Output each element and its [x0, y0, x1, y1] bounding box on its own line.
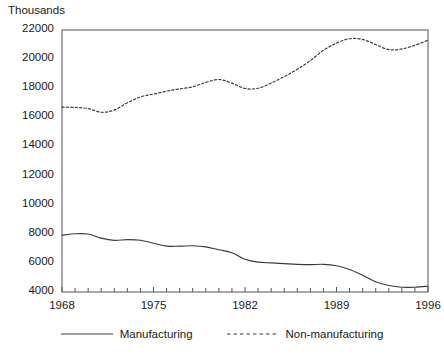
dashed-line-icon	[227, 329, 279, 339]
legend-label: Non-manufacturing	[286, 328, 384, 340]
series-lines	[62, 38, 428, 287]
legend-entry: Non-manufacturing	[227, 328, 384, 340]
legend-entry: Manufacturing	[61, 328, 193, 340]
series-line	[62, 38, 428, 112]
series-line	[62, 234, 428, 288]
x-axis-ticks	[62, 287, 428, 292]
chart-legend: ManufacturingNon-manufacturing	[0, 328, 444, 340]
employment-line-chart: Thousands 400060008000100001200014000160…	[0, 0, 444, 355]
solid-line-icon	[61, 329, 113, 339]
plot-canvas	[0, 0, 444, 355]
plot-frame	[62, 30, 428, 292]
legend-label: Manufacturing	[120, 328, 193, 340]
